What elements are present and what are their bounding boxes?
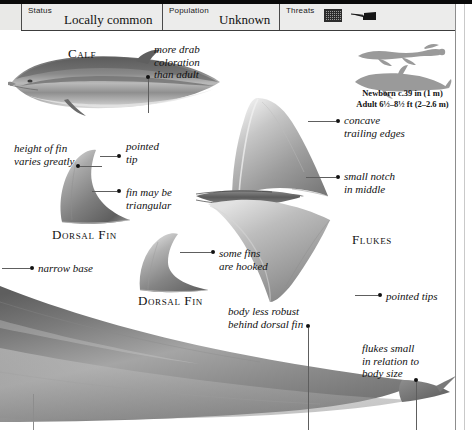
adult-size-text: Adult 6½–8½ ft (2–2.6 m) (352, 99, 453, 110)
header-cell-status: Status Locally common (21, 4, 162, 30)
dorsal-fin-label-1: Dorsal Fin (52, 227, 117, 243)
leader-dot-narrow-base (30, 266, 34, 270)
annotation-may-be-triangular: fin may be triangular (126, 186, 172, 211)
status-header-bar: Status Locally common Population Unknown… (21, 4, 455, 31)
size-comparison-caption: Newborn c.39 in (1 m) Adult 6½–8½ ft (2–… (352, 88, 453, 110)
leader-line-concave (308, 121, 336, 122)
status-value: Locally common (64, 12, 152, 28)
harpoon-boat-icon (351, 9, 377, 22)
leader-line-drab (148, 79, 149, 113)
annotation-body-less-robust: body less robust behind dorsal fin (228, 305, 303, 330)
leader-dot-hooked (211, 250, 215, 254)
flukes-label: Flukes (352, 232, 392, 248)
leader-dot-pointed-tip (117, 154, 121, 158)
header-cell-population: Population Unknown (162, 4, 279, 30)
leader-line-flukes-small (416, 382, 417, 430)
annotation-narrow-base: narrow base (38, 262, 93, 275)
leader-dot-triangular (117, 189, 121, 193)
field-guide-page: Status Locally common Population Unknown… (0, 0, 472, 430)
annotation-height-varies: height of fin varies greatly (14, 142, 74, 167)
leader-line-narrow-base (2, 268, 30, 269)
leader-line-pointed-tip (100, 156, 117, 157)
newborn-size-text: Newborn c.39 in (1 m) (352, 88, 453, 99)
leader-line-body-robust (308, 328, 309, 430)
leader-dot-concave (336, 119, 340, 123)
annotation-drab-coloration: more drab coloration than adult (154, 43, 200, 81)
leader-line-height-varies (80, 166, 102, 167)
annotation-small-notch: small notch in middle (344, 170, 395, 195)
leader-line-lower-left (33, 394, 34, 430)
right-edge-rule (464, 4, 465, 430)
left-gutter (0, 4, 22, 30)
population-label: Population (169, 6, 209, 15)
threats-label: Threats (286, 6, 315, 15)
annotation-pointed-tip: pointed tip (126, 140, 159, 165)
leader-line-hooked (180, 252, 211, 253)
calf-label: Calf (68, 46, 96, 62)
status-label: Status (28, 6, 52, 15)
fishing-net-icon (324, 9, 342, 22)
header-cell-threats: Threats (279, 4, 455, 30)
threat-icon-group (324, 9, 377, 22)
annotation-concave-edges: concave trailing edges (344, 114, 405, 139)
leader-line-notch (306, 177, 336, 178)
annotation-some-hooked: some fins are hooked (219, 247, 268, 272)
population-value: Unknown (219, 12, 270, 28)
leader-dot-notch (336, 175, 340, 179)
annotation-flukes-small: flukes small in relation to body size (362, 342, 419, 380)
leader-line-triangular (92, 191, 117, 192)
human-swimmer-silhouette (358, 44, 445, 66)
